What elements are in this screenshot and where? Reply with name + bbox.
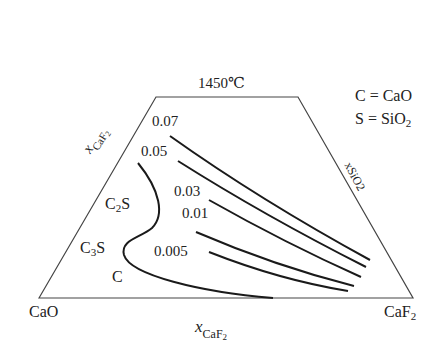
legend-cao: C = CaO: [355, 88, 412, 104]
bottom-axis-x: x: [195, 317, 203, 336]
iso-label-0.005: 0.005: [154, 244, 188, 259]
corner-label-caf2: CaF2: [384, 304, 416, 322]
legend-sio2-sub: 2: [406, 117, 412, 129]
iso-label-0.07: 0.07: [152, 114, 178, 129]
bottom-axis-sub: CaF2: [203, 327, 228, 341]
region-c2s: C2S: [105, 196, 130, 214]
corner-label-cao: CaO: [29, 304, 58, 320]
legend-sio2-main: S = SiO: [355, 110, 406, 127]
region-c3s: C3S: [80, 240, 105, 258]
iso-curve-0.01: [196, 232, 354, 286]
bottom-axis-label: xCaF2: [195, 318, 227, 342]
phase-diagram: [0, 0, 448, 364]
iso-label-0.01: 0.01: [182, 206, 208, 221]
legend-sio2: S = SiO2: [355, 111, 411, 129]
region-c: C: [112, 269, 123, 285]
iso-label-0.05: 0.05: [141, 144, 167, 159]
iso-curve-0.005: [209, 252, 348, 291]
corner-caf2-main: CaF: [384, 303, 411, 320]
iso-label-0.03: 0.03: [174, 184, 200, 199]
corner-caf2-sub: 2: [411, 310, 417, 322]
temperature-title: 1450℃: [198, 76, 245, 91]
